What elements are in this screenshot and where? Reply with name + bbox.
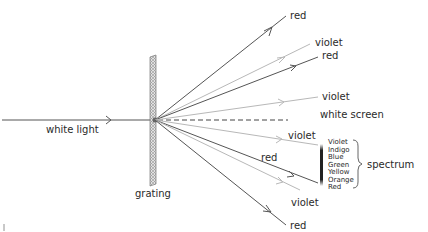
ray-violet-lower1	[155, 120, 300, 190]
label-red-top: red	[290, 10, 306, 21]
label-spectrum: spectrum	[367, 159, 414, 170]
label-red-lower1: red	[261, 152, 277, 163]
ray-red-bottom	[155, 120, 286, 225]
diffraction-diagram: white light grating white screen spectru…	[0, 0, 428, 232]
label-red-bottom: red	[290, 220, 306, 231]
label-white-screen: white screen	[320, 109, 384, 120]
spectrum-list: Violet Indigo Blue Green Yellow Orange R…	[327, 138, 354, 191]
spectrum-color: Red	[328, 183, 341, 191]
label-violet-upper1: violet	[315, 37, 343, 48]
label-white-light: white light	[46, 124, 99, 135]
label-violet-lower0: violet	[288, 130, 316, 141]
label-red-upper1: red	[322, 50, 338, 61]
ray-red-upper1	[155, 57, 318, 120]
label-grating: grating	[135, 188, 171, 199]
spectrum-band	[320, 144, 323, 186]
label-violet-lower1: violet	[291, 197, 319, 208]
brace-icon	[353, 140, 362, 188]
label-violet-upper0: violet	[322, 91, 350, 102]
incident-ray	[2, 116, 155, 124]
